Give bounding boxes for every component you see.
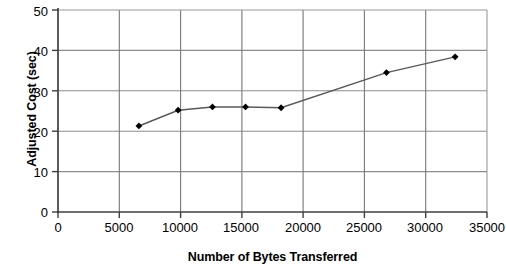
plot-area: [0, 0, 506, 273]
data-point-2: [209, 104, 216, 111]
data-point-3: [242, 104, 249, 111]
y-axis-ticks: [52, 10, 58, 212]
x-axis-ticks: [58, 212, 487, 218]
data-point-0: [135, 123, 142, 130]
data-series-line: [139, 57, 455, 126]
vertical-gridlines: [119, 10, 425, 212]
horizontal-gridlines: [58, 50, 487, 171]
chart-figure: Adjusted Cost (sec) Number of Bytes Tran…: [0, 0, 506, 273]
data-point-4: [278, 104, 285, 111]
data-point-6: [452, 53, 459, 60]
data-series-markers: [135, 53, 458, 129]
data-point-5: [383, 69, 390, 76]
